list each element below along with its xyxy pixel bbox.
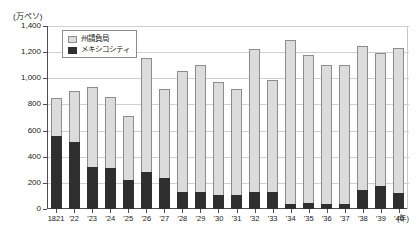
y-tick-label-200: 200 xyxy=(0,179,41,187)
bar-'25 xyxy=(123,116,134,209)
bar-'35 xyxy=(303,55,314,209)
bar-segment-state-contract xyxy=(51,98,62,137)
bar-'24 xyxy=(105,97,116,209)
x-tick-mark-'40 xyxy=(399,209,400,213)
bar-segment-mexico-city xyxy=(141,172,152,209)
bar-segment-state-contract xyxy=(177,71,188,192)
bar-segment-state-contract xyxy=(357,46,368,190)
bar-'38 xyxy=(357,46,368,209)
bar-segment-mexico-city xyxy=(393,193,404,209)
bar-segment-mexico-city xyxy=(123,180,134,209)
bar-segment-mexico-city xyxy=(357,190,368,209)
bar-'29 xyxy=(195,65,206,209)
legend-swatch-icon-dark xyxy=(68,47,77,54)
x-tick-mark-'22 xyxy=(74,209,75,213)
bar-segment-mexico-city xyxy=(51,136,62,209)
bar-'36 xyxy=(321,65,332,209)
bar-'23 xyxy=(87,87,98,209)
bar-segment-state-contract xyxy=(123,116,134,179)
bar-'30 xyxy=(213,82,224,209)
bar-segment-state-contract xyxy=(231,89,242,196)
bar-'31 xyxy=(231,89,242,209)
bar-segment-state-contract xyxy=(321,65,332,204)
bar-segment-mexico-city xyxy=(87,167,98,209)
bar-segment-state-contract xyxy=(375,53,386,186)
x-tick-mark-'23 xyxy=(92,209,93,213)
bar-segment-state-contract xyxy=(105,97,116,168)
x-tick-mark-'30 xyxy=(218,209,219,213)
bar-segment-mexico-city xyxy=(267,192,278,209)
x-tick-mark-1821 xyxy=(56,209,57,213)
x-tick-mark-'25 xyxy=(128,209,129,213)
x-tick-mark-'39 xyxy=(381,209,382,213)
bar-segment-mexico-city xyxy=(231,195,242,209)
x-tick-mark-'36 xyxy=(327,209,328,213)
bar-1821 xyxy=(51,98,62,209)
bar-'26 xyxy=(141,58,152,209)
bar-segment-mexico-city xyxy=(249,192,260,209)
y-tick-label-1000: 1,000 xyxy=(0,74,41,82)
y-tick-label-0: 0 xyxy=(0,205,41,213)
bar-segment-state-contract xyxy=(303,55,314,203)
y-tick-label-400: 400 xyxy=(0,153,41,161)
bar-segment-state-contract xyxy=(339,65,350,205)
legend-swatch-icon-light xyxy=(68,36,77,43)
x-tick-mark-'34 xyxy=(291,209,292,213)
x-tick-mark-'32 xyxy=(255,209,256,213)
bar-'37 xyxy=(339,65,350,209)
bar-'39 xyxy=(375,53,386,209)
legend-label-1: メキシコシティ xyxy=(81,46,130,54)
bar-segment-mexico-city xyxy=(213,195,224,209)
x-tick-mark-'38 xyxy=(363,209,364,213)
bar-segment-mexico-city xyxy=(159,178,170,209)
bar-'34 xyxy=(285,40,296,209)
x-tick-mark-'37 xyxy=(345,209,346,213)
bar-'32 xyxy=(249,49,260,209)
x-tick-label-'40: '40 xyxy=(385,215,413,223)
bar-'40 xyxy=(393,48,404,209)
bar-segment-mexico-city xyxy=(69,142,80,209)
bar-segment-state-contract xyxy=(249,49,260,192)
bar-segment-mexico-city xyxy=(375,186,386,209)
x-tick-mark-'35 xyxy=(309,209,310,213)
y-axis: 02004006008001,0001,2001,400 xyxy=(0,0,47,238)
y-tick-label-600: 600 xyxy=(0,127,41,135)
x-tick-mark-'26 xyxy=(146,209,147,213)
bar-segment-state-contract xyxy=(69,91,80,142)
legend-item-1: メキシコシティ xyxy=(68,46,130,54)
bar-segment-state-contract xyxy=(393,48,404,193)
x-tick-mark-'29 xyxy=(200,209,201,213)
bar-'28 xyxy=(177,71,188,209)
y-tick-mark-0 xyxy=(43,209,47,210)
bar-'33 xyxy=(267,80,278,209)
x-tick-mark-'33 xyxy=(273,209,274,213)
bar-'27 xyxy=(159,89,170,209)
legend: 州請負局 メキシコシティ xyxy=(62,30,137,58)
bar-'22 xyxy=(69,91,80,209)
bar-segment-state-contract xyxy=(141,58,152,172)
bar-segment-state-contract xyxy=(87,87,98,167)
bar-segment-mexico-city xyxy=(195,192,206,209)
x-tick-mark-'31 xyxy=(237,209,238,213)
y-tick-label-1200: 1,200 xyxy=(0,48,41,56)
bar-segment-state-contract xyxy=(213,82,224,196)
x-tick-mark-'28 xyxy=(182,209,183,213)
bar-segment-mexico-city xyxy=(105,168,116,209)
x-tick-mark-'24 xyxy=(110,209,111,213)
bar-segment-state-contract xyxy=(195,65,206,192)
bar-segment-state-contract xyxy=(159,89,170,179)
legend-item-0: 州請負局 xyxy=(68,35,130,43)
legend-label-0: 州請負局 xyxy=(81,35,109,43)
chart-root: (万ペソ) 02004006008001,0001,2001,400 州請負局 … xyxy=(0,0,419,238)
bar-segment-mexico-city xyxy=(177,192,188,209)
y-tick-label-800: 800 xyxy=(0,100,41,108)
y-tick-label-1400: 1,400 xyxy=(0,22,41,30)
bar-segment-state-contract xyxy=(285,40,296,203)
bar-segment-state-contract xyxy=(267,80,278,192)
x-tick-mark-'27 xyxy=(164,209,165,213)
